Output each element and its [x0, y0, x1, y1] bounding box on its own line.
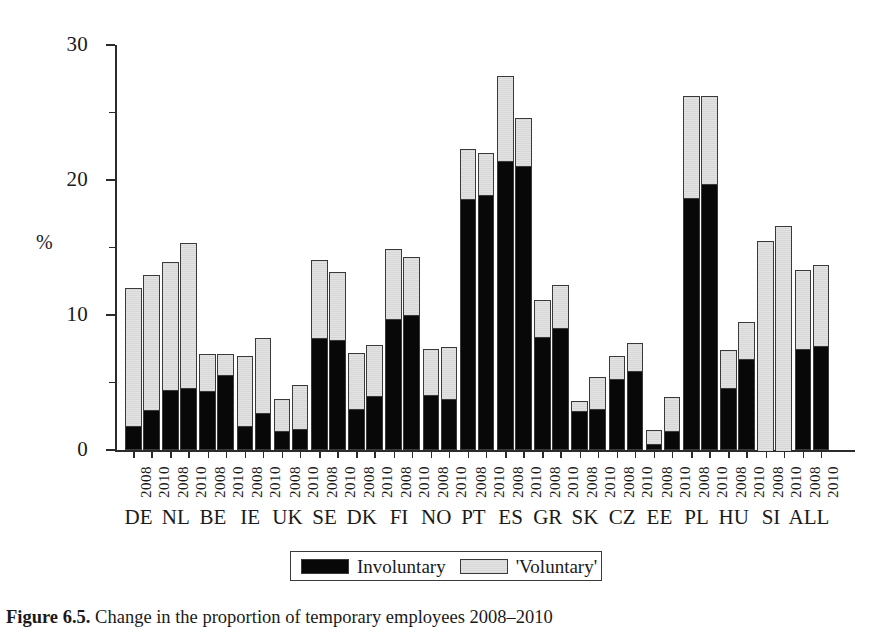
- year-label-GR-2008: 2008: [548, 466, 563, 498]
- x-tick-NL-2008: [170, 451, 171, 458]
- bar-segment-involuntary: [256, 413, 271, 449]
- bar-segment-voluntary: [238, 357, 253, 429]
- legend-swatch-voluntary: [460, 559, 508, 574]
- bar-segment-voluntary: [590, 378, 605, 410]
- bar-SE-2008: [311, 260, 328, 450]
- bar-PT-2010: [478, 153, 495, 450]
- year-label-SK-2008: 2008: [585, 466, 600, 498]
- figure-caption-text: Change in the proportion of temporary em…: [95, 607, 553, 627]
- year-label-PT-2008: 2008: [474, 466, 489, 498]
- x-tick-ALL-2008: [803, 451, 804, 458]
- year-label-DE-2010: 2010: [157, 466, 172, 498]
- y-axis-title: %: [36, 232, 53, 252]
- bar-SK-2008: [571, 401, 588, 450]
- x-tick-GR-2010: [560, 451, 561, 458]
- bar-segment-voluntary: [293, 386, 308, 431]
- y-tick-label-20: 20: [30, 169, 88, 190]
- year-label-HU-2008: 2008: [734, 466, 749, 498]
- country-label-ES: ES: [491, 506, 530, 528]
- bar-DE-2008: [125, 288, 142, 450]
- bar-segment-voluntary: [516, 119, 531, 168]
- country-label-DE: DE: [119, 506, 158, 528]
- bar-ALL-2008: [795, 270, 812, 450]
- country-label-PL: PL: [677, 506, 716, 528]
- x-tick-ES-2010: [523, 451, 524, 458]
- country-label-NL: NL: [156, 506, 195, 528]
- country-label-BE: BE: [193, 506, 232, 528]
- x-tick-SK-2008: [580, 451, 581, 458]
- country-label-ALL: ALL: [789, 506, 828, 528]
- x-tick-SE-2010: [337, 451, 338, 458]
- year-label-SK-2010: 2010: [603, 466, 618, 498]
- bar-segment-involuntary: [814, 346, 829, 449]
- bar-segment-involuntary: [312, 338, 327, 449]
- chart-legend: Involuntary 'Voluntary': [290, 551, 602, 581]
- x-tick-IE-2008: [245, 451, 246, 458]
- year-label-UK-2008: 2008: [288, 466, 303, 498]
- year-label-PL-2008: 2008: [697, 466, 712, 498]
- bar-NL-2010: [180, 243, 197, 450]
- x-tick-BE-2008: [208, 451, 209, 458]
- bar-GR-2008: [534, 300, 551, 450]
- bar-segment-involuntary: [553, 328, 568, 450]
- bar-segment-voluntary: [144, 276, 159, 412]
- bar-DK-2010: [366, 345, 383, 450]
- bar-segment-voluntary: [702, 97, 717, 186]
- bar-FI-2008: [385, 249, 402, 450]
- year-label-BE-2008: 2008: [213, 466, 228, 498]
- x-tick-IE-2010: [263, 451, 264, 458]
- year-label-SE-2010: 2010: [343, 466, 358, 498]
- bar-segment-involuntary: [218, 375, 233, 449]
- bar-UK-2008: [274, 399, 291, 450]
- bar-segment-voluntary: [256, 339, 271, 415]
- bar-SI-2008: [757, 241, 774, 450]
- bar-segment-voluntary: [796, 271, 811, 351]
- country-label-NO: NO: [417, 506, 456, 528]
- year-label-EE-2010: 2010: [678, 466, 693, 498]
- bar-segment-involuntary: [181, 388, 196, 449]
- year-label-ES-2008: 2008: [511, 466, 526, 498]
- plot-area: [115, 45, 850, 450]
- x-tick-PL-2008: [691, 451, 692, 458]
- bar-segment-involuntary: [796, 349, 811, 449]
- bar-segment-voluntary: [312, 261, 327, 341]
- y-tick-label-30: 30: [30, 34, 88, 55]
- y-tick-0: [106, 449, 115, 451]
- bar-GR-2010: [552, 285, 569, 450]
- y-tick-30: [106, 44, 115, 46]
- bar-segment-voluntary: [181, 244, 196, 390]
- year-label-DE-2008: 2008: [139, 466, 154, 498]
- bar-segment-voluntary: [665, 398, 680, 433]
- x-tick-NL-2010: [188, 451, 189, 458]
- bar-FI-2010: [403, 257, 420, 450]
- bar-segment-involuntary: [461, 199, 476, 449]
- bar-DK-2008: [348, 353, 365, 450]
- bar-ALL-2010: [813, 265, 830, 450]
- bar-BE-2010: [217, 354, 234, 450]
- year-label-ALL-2008: 2008: [808, 466, 823, 498]
- country-label-EE: EE: [640, 506, 679, 528]
- bar-segment-involuntary: [721, 388, 736, 449]
- bar-segment-voluntary: [349, 354, 364, 411]
- country-label-DK: DK: [342, 506, 381, 528]
- bar-NL-2008: [162, 262, 179, 450]
- year-label-NL-2010: 2010: [194, 466, 209, 498]
- bar-CZ-2008: [609, 356, 626, 451]
- bar-segment-voluntary: [721, 351, 736, 390]
- bar-segment-voluntary: [126, 289, 141, 428]
- legend-swatch-involuntary: [301, 559, 349, 574]
- x-tick-NO-2008: [431, 451, 432, 458]
- bar-HU-2008: [720, 350, 737, 450]
- year-label-PL-2010: 2010: [715, 466, 730, 498]
- figure-caption: Figure 6.5. Change in the proportion of …: [6, 606, 553, 628]
- country-label-CZ: CZ: [603, 506, 642, 528]
- year-label-UK-2010: 2010: [306, 466, 321, 498]
- bar-segment-involuntary: [684, 198, 699, 449]
- year-label-FI-2008: 2008: [399, 466, 414, 498]
- bar-segment-involuntary: [628, 371, 643, 449]
- bar-segment-involuntary: [442, 399, 457, 449]
- x-tick-EE-2010: [672, 451, 673, 458]
- figure-container: % 0102030 20082010DE20082010NL20082010BE…: [0, 0, 870, 636]
- x-tick-DK-2010: [374, 451, 375, 458]
- bar-segment-involuntary: [404, 315, 419, 449]
